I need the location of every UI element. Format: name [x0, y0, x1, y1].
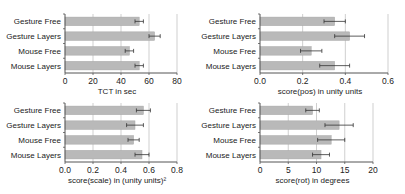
x-tick-label: 0: [63, 76, 68, 86]
x-tick-label: 0.6: [382, 76, 394, 86]
x-tick-label: 40: [116, 76, 126, 86]
scale-score-chart: Gesture FreeGesture LayersMouse FreeMous…: [6, 103, 183, 185]
category-label: Gesture Layers: [201, 121, 256, 130]
bar: [260, 106, 313, 115]
bar: [65, 136, 134, 145]
category-label: Gesture Layers: [201, 32, 256, 41]
category-label: Gesture Layers: [6, 121, 61, 130]
bar: [65, 106, 143, 115]
position-score-chart: Gesture FreeGesture LayersMouse FreeMous…: [201, 14, 394, 96]
bar: [65, 150, 142, 159]
tct-chart: Gesture FreeGesture LayersMouse FreeMous…: [6, 14, 182, 96]
x-tick-label: 0.8: [171, 165, 183, 175]
bar: [260, 150, 321, 159]
x-tick-label: 0.4: [339, 76, 351, 86]
chart-grid: Gesture FreeGesture LayersMouse FreeMous…: [0, 0, 405, 194]
x-tick-label: 15: [340, 165, 350, 175]
category-label: Gesture Free: [209, 106, 257, 115]
bar: [65, 61, 139, 70]
category-label: Gesture Free: [209, 17, 257, 26]
x-tick-label: 0.0: [59, 165, 71, 175]
bar: [65, 47, 129, 56]
x-tick-label: 80: [172, 76, 182, 86]
figure: Gesture FreeGesture LayersMouse FreeMous…: [0, 0, 405, 194]
bar: [65, 32, 155, 41]
bar: [65, 17, 139, 26]
x-axis-label: score(rot) in degrees: [276, 176, 350, 185]
x-tick-label: 20: [368, 165, 378, 175]
x-tick-label: 0.2: [297, 76, 309, 86]
x-tick-label: 0.2: [87, 165, 99, 175]
x-axis-label: score(scale) in (unity units)²: [68, 176, 167, 185]
x-tick-label: 20: [88, 76, 98, 86]
x-tick-label: 5: [286, 165, 291, 175]
category-label: Gesture Free: [14, 17, 62, 26]
x-tick-label: 0: [258, 165, 263, 175]
x-tick-label: 0.4: [115, 165, 127, 175]
category-label: Mouse Layers: [11, 151, 61, 160]
category-label: Mouse Layers: [206, 151, 256, 160]
category-label: Mouse Free: [213, 47, 256, 56]
category-label: Mouse Layers: [206, 62, 256, 71]
category-label: Mouse Free: [18, 47, 61, 56]
category-label: Mouse Free: [18, 136, 61, 145]
category-label: Mouse Layers: [11, 62, 61, 71]
x-tick-label: 0.6: [143, 165, 155, 175]
bar: [65, 121, 135, 130]
x-tick-label: 10: [312, 165, 322, 175]
x-tick-label: 60: [144, 76, 154, 86]
category-label: Gesture Free: [14, 106, 62, 115]
category-label: Gesture Layers: [6, 32, 61, 41]
x-tick-label: 0.0: [254, 76, 266, 86]
bar: [260, 17, 335, 26]
x-axis-label: TCT in sec: [98, 87, 137, 96]
category-label: Mouse Free: [213, 136, 256, 145]
rotation-score-chart: Gesture FreeGesture LayersMouse FreeMous…: [201, 103, 378, 185]
x-axis-label: score(pos) in unity units: [278, 87, 362, 96]
